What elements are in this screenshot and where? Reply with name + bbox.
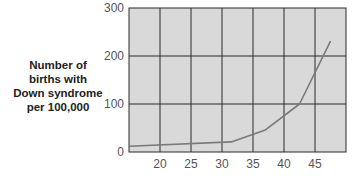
- line-chart: 0100200300 202530354045: [0, 0, 358, 184]
- y-tick-label: 100: [104, 97, 124, 111]
- plot-area: [129, 8, 346, 152]
- y-tick-label: 0: [117, 145, 124, 159]
- y-tick-label: 200: [104, 49, 124, 63]
- x-tick-label: 35: [246, 157, 260, 171]
- x-tick-label: 40: [277, 157, 291, 171]
- x-axis-ticks: 202530354045: [153, 157, 322, 171]
- y-tick-label: 300: [104, 1, 124, 15]
- y-axis-ticks: 0100200300: [104, 1, 124, 159]
- x-tick-label: 45: [308, 157, 322, 171]
- x-tick-label: 20: [153, 157, 167, 171]
- x-tick-label: 30: [215, 157, 229, 171]
- x-tick-label: 25: [184, 157, 198, 171]
